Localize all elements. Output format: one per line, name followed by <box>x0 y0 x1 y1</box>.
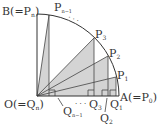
leader-Q2 <box>105 98 107 112</box>
label-P2: P2 <box>109 47 120 60</box>
quarter-circle-diagram: · · · B(=Pn) Pn−1 P3 P2 P1 A(=P0) O(=Qn)… <box>0 0 161 131</box>
base-ellipsis: · · · <box>75 100 86 108</box>
label-Pn-1: Pn−1 <box>54 1 72 14</box>
label-P3: P3 <box>95 28 106 41</box>
label-Q2: Q2 <box>100 112 113 125</box>
label-P1: P1 <box>117 69 128 82</box>
label-B: B(=Pn) <box>2 5 39 18</box>
label-O: O(=Qn) <box>4 98 44 111</box>
arc-ellipsis: · · · <box>67 13 80 25</box>
label-A: A(=P0) <box>119 91 157 104</box>
label-Q3: Q3 <box>89 98 102 111</box>
